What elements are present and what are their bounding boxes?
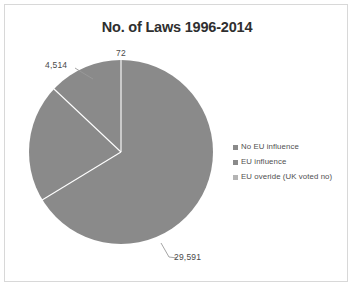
- chart-legend: No EU influence EU influence EU overide …: [233, 143, 348, 188]
- legend-label: EU overide (UK voted no): [241, 173, 332, 182]
- legend-item-eu-influence[interactable]: EU influence: [233, 158, 348, 167]
- legend-swatch-icon: [233, 160, 238, 165]
- legend-item-no-eu-influence[interactable]: No EU influence: [233, 143, 348, 152]
- pie-chart-plot-area: 72 4,514 29,591 No EU influence EU influ…: [5, 5, 348, 282]
- legend-item-eu-overide[interactable]: EU overide (UK voted no): [233, 173, 348, 182]
- chart-frame: No. of Laws 1996-2014 72 4,514 29,591 No…: [4, 4, 348, 282]
- data-label-eu-influence: 4,514: [45, 60, 67, 70]
- data-label-eu-overide: 72: [116, 48, 126, 58]
- legend-label: No EU influence: [241, 143, 299, 152]
- legend-label: EU influence: [241, 158, 286, 167]
- data-label-no-eu-influence: 29,591: [174, 252, 201, 262]
- legend-swatch-icon: [233, 145, 238, 150]
- legend-swatch-icon: [233, 175, 238, 180]
